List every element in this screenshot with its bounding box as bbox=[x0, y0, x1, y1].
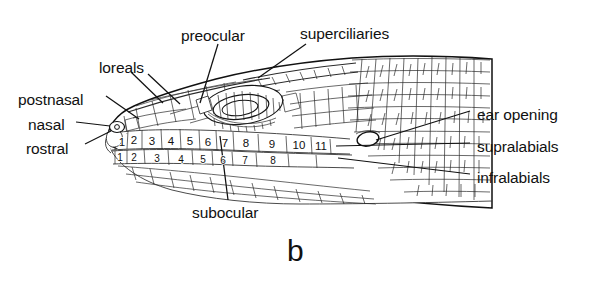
panel-label: b bbox=[287, 236, 304, 266]
label-subocular: subocular bbox=[192, 205, 258, 221]
infralabial-number: 8 bbox=[270, 155, 276, 166]
infralabial-number: 3 bbox=[154, 153, 160, 164]
infralabial-number: 5 bbox=[200, 154, 206, 165]
supralabial-number: 7 bbox=[222, 137, 228, 149]
supralabial-number: 1 bbox=[119, 136, 125, 148]
label-supralabials: supralabials bbox=[477, 139, 559, 155]
label-infralabials: infralabials bbox=[477, 170, 550, 186]
leader-loreals-a bbox=[131, 72, 163, 103]
supralabial-number: 8 bbox=[243, 137, 249, 149]
leader-nasal bbox=[76, 122, 110, 126]
infralabial-number: 4 bbox=[178, 154, 184, 165]
label-postnasal: postnasal bbox=[18, 92, 83, 108]
infralabial-number: 7 bbox=[242, 155, 248, 166]
label-preocular: preocular bbox=[181, 28, 245, 44]
label-superciliaries: superciliaries bbox=[300, 26, 389, 42]
infralabial-number: 2 bbox=[131, 152, 137, 163]
label-rostral: rostral bbox=[26, 141, 68, 157]
nostril-opening bbox=[115, 125, 120, 130]
supralabial-number: 2 bbox=[131, 134, 137, 146]
supralabial-number: 3 bbox=[149, 135, 155, 147]
supralabial-number: 4 bbox=[168, 135, 175, 147]
label-loreals: loreals bbox=[99, 60, 144, 76]
supralabial-number: 5 bbox=[187, 135, 193, 147]
label-ear-opening: ear opening bbox=[477, 107, 558, 123]
infralabial-number: 1 bbox=[117, 152, 123, 163]
supralabial-number: 11 bbox=[315, 140, 327, 152]
supralabial-number: 9 bbox=[269, 138, 275, 150]
infralabial-number: 6 bbox=[220, 155, 226, 166]
supralabial-number: 6 bbox=[205, 136, 211, 148]
supralabial-number: 10 bbox=[293, 139, 306, 151]
lizard-head-figure: 1 2 3 4 5 6 7 8 9 10 11 1 2 3 4 5 6 7 8 … bbox=[0, 0, 598, 283]
label-nasal: nasal bbox=[28, 117, 65, 133]
